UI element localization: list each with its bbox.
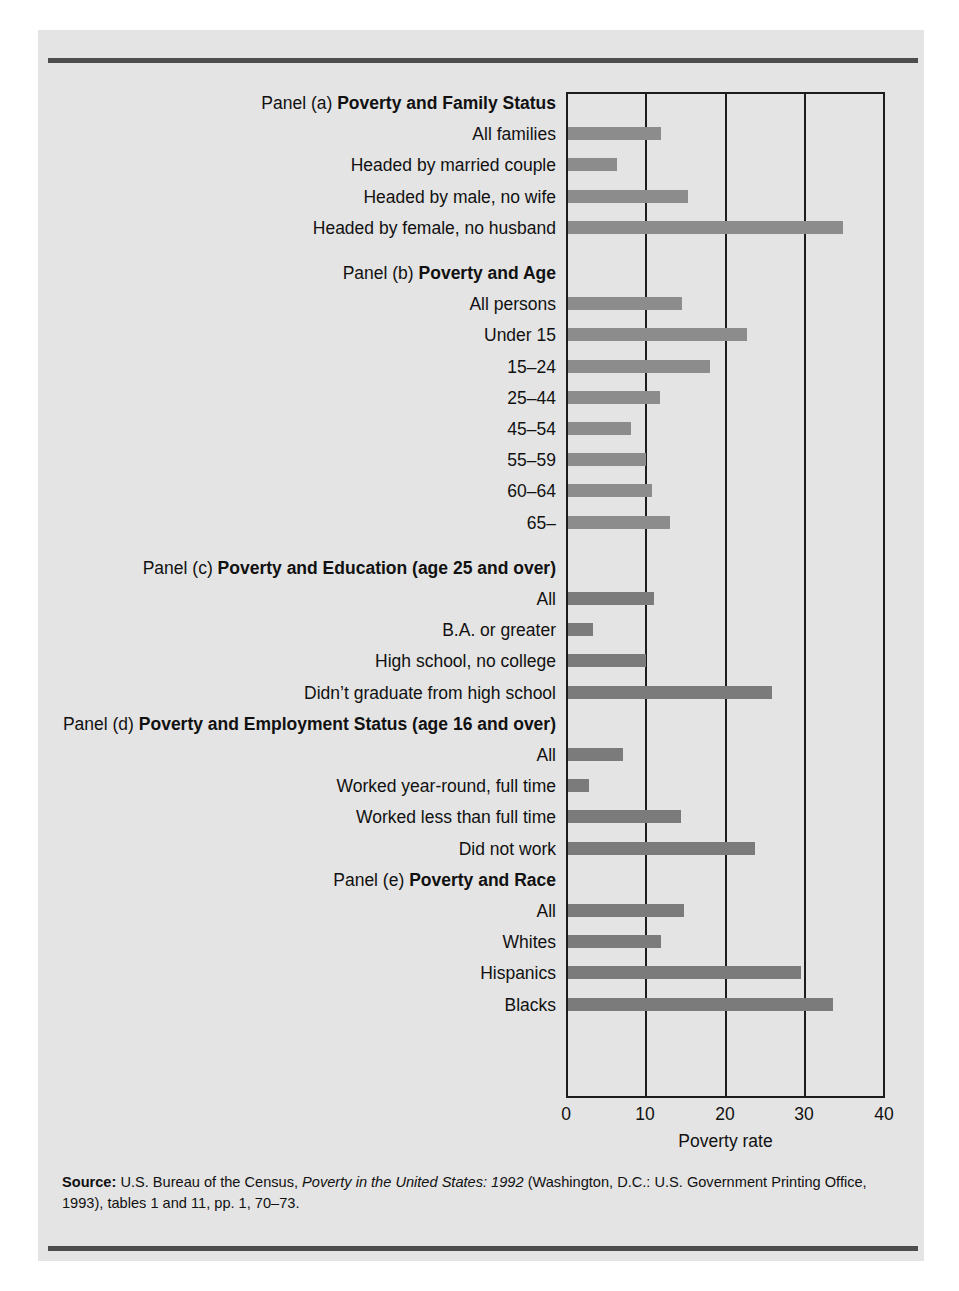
row-label: Headed by female, no husband	[26, 218, 556, 238]
panel-title-d: Poverty and Employment Status (age 16 an…	[139, 714, 556, 734]
bar	[568, 842, 755, 855]
xtick-40: 40	[864, 1104, 904, 1124]
gridline-30	[804, 94, 806, 1096]
bar	[568, 998, 833, 1011]
bar	[568, 391, 660, 404]
xtick-30: 30	[784, 1104, 824, 1124]
xtick-10: 10	[625, 1104, 665, 1124]
bar	[568, 221, 843, 234]
row-label: Worked less than full time	[26, 807, 556, 827]
bar	[568, 328, 747, 341]
bar	[568, 623, 593, 636]
row-label: 15–24	[26, 357, 556, 377]
row-label: 25–44	[26, 388, 556, 408]
bar	[568, 297, 682, 310]
panel-lead-b: Panel (b)	[343, 263, 419, 283]
panel-lead-a: Panel (a)	[261, 93, 337, 113]
gridline-20	[725, 94, 727, 1096]
row-label: 45–54	[26, 419, 556, 439]
row-label: All families	[26, 124, 556, 144]
panel-title-b: Poverty and Age	[419, 263, 556, 283]
row-label: All	[26, 745, 556, 765]
row-label: Did not work	[26, 839, 556, 859]
row-label: Didn’t graduate from high school	[26, 683, 556, 703]
row-label: Hispanics	[26, 963, 556, 983]
bar	[568, 966, 801, 979]
row-label: Headed by married couple	[26, 155, 556, 175]
bar	[568, 127, 661, 140]
row-label: 60–64	[26, 481, 556, 501]
panel-lead-d: Panel (d)	[63, 714, 139, 734]
bar	[568, 516, 670, 529]
xtick-0: 0	[546, 1104, 586, 1124]
bar	[568, 592, 654, 605]
row-label: Headed by male, no wife	[26, 187, 556, 207]
bar	[568, 810, 681, 823]
panel-title-e: Poverty and Race	[409, 870, 556, 890]
bar	[568, 484, 652, 497]
figure-page: Panel (a) Poverty and Family StatusAll f…	[0, 0, 959, 1291]
row-label: Whites	[26, 932, 556, 952]
bar	[568, 453, 646, 466]
row-label: 55–59	[26, 450, 556, 470]
panel-heading-e: Panel (e) Poverty and Race	[26, 870, 556, 890]
row-label: Worked year-round, full time	[26, 776, 556, 796]
bar	[568, 190, 688, 203]
poverty-rate-bar-chart: Panel (a) Poverty and Family StatusAll f…	[0, 0, 959, 1291]
bar	[568, 686, 772, 699]
panel-title-c: Poverty and Education (age 25 and over)	[218, 558, 556, 578]
panel-lead-c: Panel (c)	[143, 558, 218, 578]
row-label: High school, no college	[26, 651, 556, 671]
bar	[568, 360, 710, 373]
bar	[568, 748, 623, 761]
row-label: All	[26, 901, 556, 921]
row-label: 65–	[26, 513, 556, 533]
row-label: Under 15	[26, 325, 556, 345]
x-axis-title: Poverty rate	[566, 1131, 885, 1152]
xtick-20: 20	[705, 1104, 745, 1124]
row-label: B.A. or greater	[26, 620, 556, 640]
row-label: All	[26, 589, 556, 609]
row-label: Blacks	[26, 995, 556, 1015]
bar	[568, 158, 617, 171]
panel-heading-a: Panel (a) Poverty and Family Status	[26, 93, 556, 113]
bar	[568, 935, 661, 948]
source-label: Source:	[62, 1174, 116, 1190]
panel-heading-c: Panel (c) Poverty and Education (age 25 …	[26, 558, 556, 578]
panel-heading-d: Panel (d) Poverty and Employment Status …	[26, 714, 556, 734]
row-label: All persons	[26, 294, 556, 314]
source-text-1: U.S. Bureau of the Census,	[116, 1174, 302, 1190]
bar	[568, 779, 589, 792]
source-note: Source: U.S. Bureau of the Census, Pover…	[62, 1172, 912, 1214]
bar	[568, 422, 631, 435]
panel-title-a: Poverty and Family Status	[337, 93, 556, 113]
bar	[568, 904, 684, 917]
panel-heading-b: Panel (b) Poverty and Age	[26, 263, 556, 283]
bar	[568, 654, 646, 667]
source-title: Poverty in the United States: 1992	[302, 1174, 523, 1190]
panel-lead-e: Panel (e)	[333, 870, 409, 890]
